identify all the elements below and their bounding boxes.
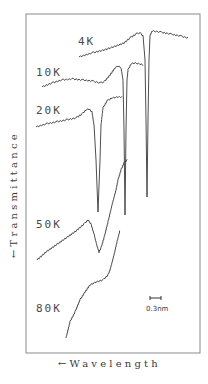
curve-label-4k: 4K bbox=[78, 35, 95, 48]
x-axis-label: ←Wavelength bbox=[58, 358, 161, 369]
trace-50k bbox=[37, 159, 127, 260]
curve-labels: 4K 10K 20K 50K 80K bbox=[36, 35, 95, 315]
curve-label-80k: 80K bbox=[36, 302, 62, 315]
trace-4k bbox=[79, 31, 188, 198]
scale-bar: 0.3nm bbox=[146, 296, 169, 313]
spectra-figure: 4K 10K 20K 50K 80K 0.3nm ←Wavelength ←Tr… bbox=[0, 0, 208, 384]
y-axis-label: ←Transmittance bbox=[8, 131, 19, 258]
scale-bar-label: 0.3nm bbox=[146, 305, 169, 313]
trace-80k bbox=[66, 231, 120, 338]
curve-label-10k: 10K bbox=[36, 66, 62, 79]
curve-label-20k: 20K bbox=[36, 104, 62, 117]
curve-label-50k: 50K bbox=[36, 218, 62, 231]
trace-10k bbox=[42, 63, 143, 216]
